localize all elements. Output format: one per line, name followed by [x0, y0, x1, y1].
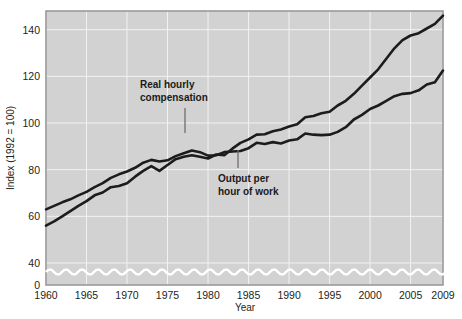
x-axis-tick-label: 1995 [318, 289, 342, 301]
y-axis-tick-label: 40 [28, 257, 40, 269]
x-axis-tick-label: 2000 [358, 289, 382, 301]
plot-area-background [46, 11, 443, 285]
annotation-compensation-line2: compensation [140, 92, 208, 103]
y-axis-title: Index (1992 = 100) [5, 106, 16, 190]
chart-container: 0406080100120140 19601965197019751980198… [0, 0, 462, 319]
line-chart: 0406080100120140 19601965197019751980198… [0, 0, 462, 319]
y-axis-tick-label: 120 [22, 70, 40, 82]
x-axis-tick-label: 1985 [237, 289, 261, 301]
x-axis-title: Year [235, 302, 256, 313]
annotation-compensation-line1: Real hourly [140, 79, 195, 90]
x-axis-tick-label: 1965 [75, 289, 99, 301]
x-axis-tick-label: 1990 [277, 289, 301, 301]
y-axis-tick-label: 60 [28, 210, 40, 222]
x-axis-tick-label: 1970 [115, 289, 139, 301]
annotation-output-line2: hour of work [218, 186, 279, 197]
x-axis-tick-label: 2005 [399, 289, 423, 301]
x-axis-tick-label: 2009 [431, 289, 455, 301]
y-axis-tick-label: 80 [28, 164, 40, 176]
x-axis-tick-label: 1960 [34, 289, 58, 301]
x-axis-tick-label: 1975 [156, 289, 180, 301]
y-axis-tick-label: 100 [22, 117, 40, 129]
y-axis-tick-label: 140 [22, 24, 40, 36]
x-axis-tick-label: 1980 [196, 289, 220, 301]
annotation-output-line1: Output per [218, 173, 269, 184]
